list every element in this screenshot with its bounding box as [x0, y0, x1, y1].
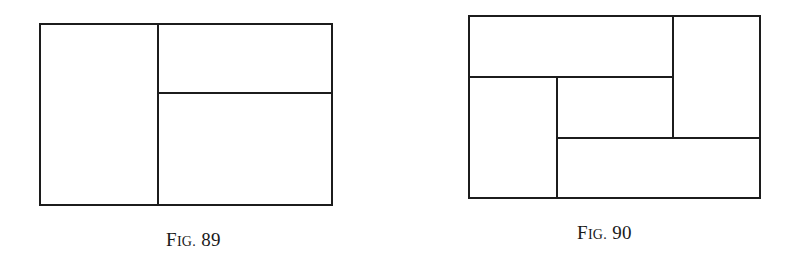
- fig90-outer-rectangle: [468, 15, 761, 199]
- fig90-caption-prefix-sc: IG.: [588, 227, 607, 242]
- fig89-outer-rectangle: [39, 23, 333, 206]
- figure-90: FIG. 90: [400, 0, 795, 256]
- fig90-caption: FIG. 90: [577, 222, 632, 244]
- fig89-caption: FIG. 89: [166, 229, 221, 251]
- fig90-caption-number: 90: [612, 222, 632, 243]
- fig89-caption-prefix-cap: F: [166, 229, 177, 250]
- figure-89: FIG. 89: [0, 0, 400, 256]
- fig89-vertical-divider: [157, 24, 159, 205]
- fig90-right-column-divider: [672, 16, 674, 139]
- fig89-horizontal-divider: [158, 92, 332, 94]
- fig90-top-band-divider: [469, 76, 674, 78]
- fig90-caption-prefix-cap: F: [577, 222, 588, 243]
- fig89-caption-prefix-sc: IG.: [177, 234, 196, 249]
- fig89-caption-number: 89: [201, 229, 221, 250]
- fig90-bottom-band-divider: [557, 137, 760, 139]
